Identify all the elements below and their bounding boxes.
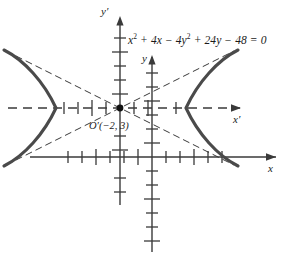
y-axis-label: y [142, 53, 147, 64]
x-axis-label: x [268, 163, 273, 174]
x-axis-arrowhead [266, 153, 276, 161]
origin-point-label: O′(−2, 3) [89, 121, 129, 132]
y-prime-axis-arrowhead [116, 16, 123, 26]
x-prime-axis-arrowhead [231, 104, 241, 112]
equation-label: x2 + 4x − 4y2 + 24y − 48 = 0 [128, 33, 267, 46]
center-point-marker [117, 105, 124, 112]
hyperbola-figure: x2 + 4x − 4y2 + 24y − 48 = 0 O′(−2, 3) y… [0, 0, 294, 256]
translated-axes-group [8, 20, 240, 205]
y-axis-arrowhead [148, 55, 155, 65]
y-prime-axis-label: y′ [101, 6, 108, 17]
x-prime-axis-label: x′ [233, 114, 240, 125]
original-axes-group [30, 57, 276, 252]
